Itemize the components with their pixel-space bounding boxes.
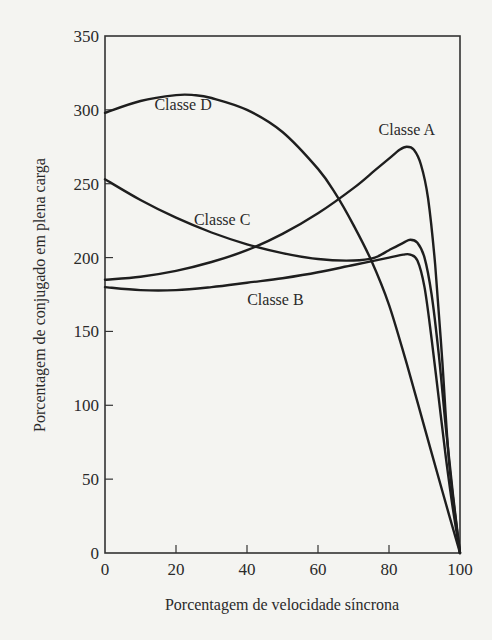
x-tick-label: 60 [310,560,327,579]
classe-d-curve [105,95,460,553]
y-tick-label: 250 [74,175,100,194]
classe-a-curve [105,147,460,553]
torque-speed-chart: 050100150200250300350 020406080100 Class… [0,0,492,640]
classe-b-label: Classe B [247,291,303,308]
y-tick-label: 50 [82,470,99,489]
series-curves [105,95,460,553]
y-tick-label: 150 [74,322,100,341]
classe-d-label: Classe D [154,96,211,113]
x-tick-label: 0 [101,560,110,579]
x-tick-label: 40 [239,560,256,579]
y-tick-label: 300 [74,101,100,120]
y-tick-label: 350 [74,27,100,46]
x-axis-ticks: 020406080100 [101,545,473,579]
x-tick-label: 80 [381,560,398,579]
x-axis-title: Porcentagem de velocidade síncrona [165,596,399,614]
classe-c-label: Classe C [194,211,250,228]
y-tick-label: 0 [91,544,100,563]
classe-a-label: Classe A [379,121,436,138]
x-tick-label: 20 [168,560,185,579]
x-tick-label: 100 [447,560,473,579]
y-tick-label: 200 [74,249,100,268]
y-axis-ticks: 050100150200250300350 [74,27,114,563]
y-axis-title: Porcentagem de conjugado em plena carga [31,158,49,432]
y-tick-label: 100 [74,396,100,415]
